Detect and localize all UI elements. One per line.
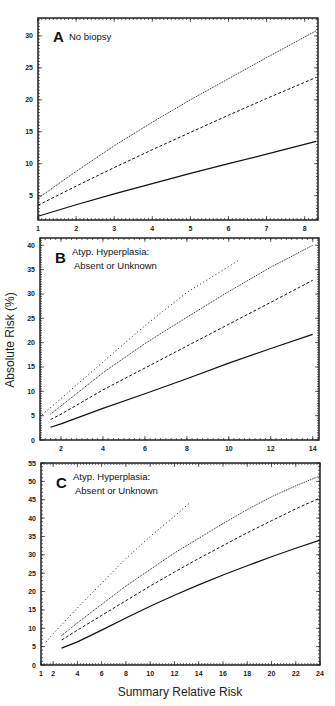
x-tick-label: 18 xyxy=(243,670,251,677)
y-tick-label: 15 xyxy=(28,606,36,613)
x-tick-label: 5 xyxy=(188,225,192,232)
x-tick-label: 2 xyxy=(51,670,55,677)
x-axis-title: Summary Relative Risk xyxy=(118,685,244,699)
series-line-dashed xyxy=(38,77,316,205)
axis-ticks xyxy=(38,18,318,220)
x-tick-label: 20 xyxy=(268,670,276,677)
x-tick-label: 14 xyxy=(195,670,203,677)
panel-letter: C xyxy=(56,474,67,491)
series-line-dashed xyxy=(51,280,313,419)
series-line-solid xyxy=(38,141,316,216)
series-line-dotted-dense xyxy=(38,31,316,199)
panel-letter: A xyxy=(53,28,64,45)
y-tick-label: 45 xyxy=(28,496,36,503)
x-tick-label: 4 xyxy=(101,445,105,452)
y-tick-label: 30 xyxy=(28,551,36,558)
x-tick-label: 10 xyxy=(146,670,154,677)
y-tick-label: 15 xyxy=(25,128,33,135)
x-tick-label: 12 xyxy=(267,445,275,452)
y-tick-label: 20 xyxy=(27,339,35,346)
y-tick-label: 0 xyxy=(31,437,35,444)
y-tick-label: 30 xyxy=(27,290,35,297)
x-tick-label: 24 xyxy=(316,670,324,677)
panel-a-no-biopsy: 1234567851015202530ANo biopsy xyxy=(25,18,318,232)
series-line-dotted-sparse xyxy=(42,260,239,415)
y-tick-label: 35 xyxy=(27,266,35,273)
y-tick-label: 20 xyxy=(25,96,33,103)
x-tick-label: 14 xyxy=(309,445,317,452)
x-tick-label: 3 xyxy=(112,225,116,232)
panel-letter: B xyxy=(55,249,66,266)
y-tick-label: 10 xyxy=(25,160,33,167)
y-axis-title: Absolute Risk (%) xyxy=(3,292,17,387)
panel-b-atypical-hyperplasia: 24681012140510152025303540BAtyp. Hyperpl… xyxy=(27,238,319,452)
plot-frame xyxy=(38,18,318,220)
series-line-dashed xyxy=(62,498,320,640)
x-tick-label: 2 xyxy=(74,225,78,232)
y-tick-label: 10 xyxy=(27,388,35,395)
x-tick-label: 1 xyxy=(39,670,43,677)
x-tick-label: 16 xyxy=(219,670,227,677)
x-tick-label: 8 xyxy=(124,670,128,677)
x-tick-label: 4 xyxy=(75,670,79,677)
y-tick-label: 10 xyxy=(28,625,36,632)
x-tick-label: 6 xyxy=(227,225,231,232)
y-tick-label: 15 xyxy=(27,363,35,370)
y-tick-label: 50 xyxy=(28,478,36,485)
y-tick-label: 35 xyxy=(28,533,36,540)
series-line-dotted-dense xyxy=(62,476,320,636)
x-tick-label: 8 xyxy=(185,445,189,452)
x-tick-label: 8 xyxy=(303,225,307,232)
x-tick-label: 7 xyxy=(265,225,269,232)
panel-title: No biopsy xyxy=(69,31,111,42)
x-tick-label: 12 xyxy=(171,670,179,677)
y-tick-label: 55 xyxy=(28,460,36,467)
y-tick-label: 5 xyxy=(32,643,36,650)
y-tick-label: 25 xyxy=(25,64,33,71)
x-tick-label: 1 xyxy=(36,225,40,232)
x-tick-label: 22 xyxy=(292,670,300,677)
x-tick-label: 10 xyxy=(225,445,233,452)
y-tick-label: 5 xyxy=(29,192,33,199)
x-tick-label: 6 xyxy=(143,445,147,452)
panel-c-atypical-hyperplasia: 1246810121416182022240510152025303540455… xyxy=(28,460,324,678)
y-tick-label: 30 xyxy=(25,32,33,39)
y-tick-label: 20 xyxy=(28,588,36,595)
series-line-solid xyxy=(51,334,313,427)
figure-canvas: 1234567851015202530ANo biopsy 2468101214… xyxy=(0,0,335,706)
series-line-solid xyxy=(62,540,320,648)
y-tick-label: 40 xyxy=(27,242,35,249)
panel-title: Absent or Unknown xyxy=(75,485,158,496)
y-tick-label: 25 xyxy=(28,570,36,577)
y-tick-label: 0 xyxy=(32,662,36,669)
panel-title: Atyp. Hyperplasia: xyxy=(73,471,150,482)
series-line-dotted-sparse xyxy=(46,503,189,642)
y-tick-label: 5 xyxy=(31,412,35,419)
y-tick-label: 25 xyxy=(27,315,35,322)
x-tick-label: 2 xyxy=(59,445,63,452)
panel-title: Atyp. Hyperplasia: xyxy=(72,246,149,257)
x-tick-label: 6 xyxy=(100,670,104,677)
y-tick-label: 40 xyxy=(28,515,36,522)
panel-title: Absent or Unknown xyxy=(74,260,157,271)
x-tick-label: 4 xyxy=(150,225,154,232)
